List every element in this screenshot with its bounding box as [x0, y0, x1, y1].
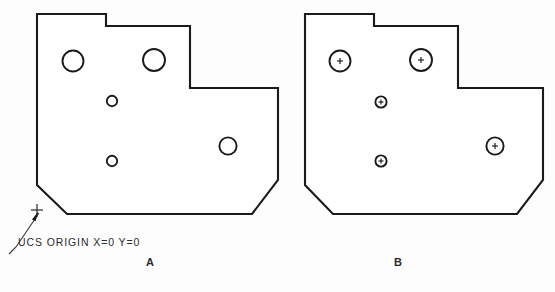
view-caption-b: B: [394, 256, 402, 268]
ucs-origin-label: UCS ORIGIN X=0 Y=0: [18, 236, 140, 248]
technical-drawing-svg: [0, 0, 555, 292]
hole-mid-lower-a: [107, 156, 117, 166]
part-outline-b: [305, 14, 543, 214]
view-b-group: [305, 14, 543, 214]
view-caption-a: A: [146, 256, 154, 268]
hole-right-a: [219, 137, 236, 154]
hole-mid-upper-a: [107, 96, 117, 106]
drawing-canvas: UCS ORIGIN X=0 Y=0 A B: [0, 0, 555, 292]
hole-top-right-a: [143, 49, 165, 71]
part-outline-a: [37, 14, 278, 214]
view-a-group: [37, 14, 278, 214]
hole-top-left-a: [63, 51, 84, 72]
